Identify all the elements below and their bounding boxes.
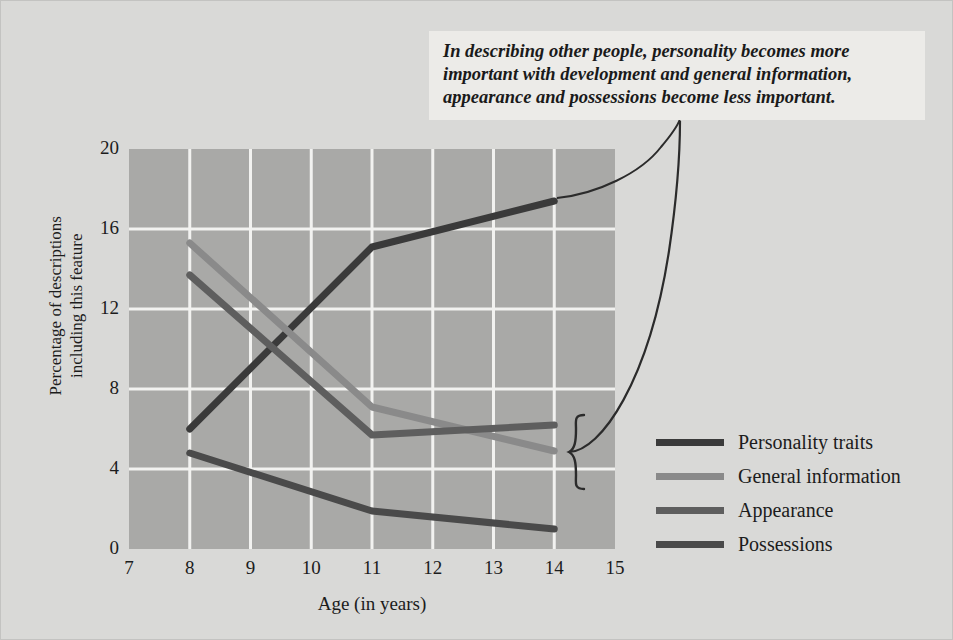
y-axis-title-line-1: Percentage of descriptions bbox=[46, 216, 65, 395]
legend-item-personality-traits[interactable]: Personality traits bbox=[656, 425, 936, 459]
legend-swatch-general-information bbox=[656, 473, 724, 480]
legend-item-general-information[interactable]: General information bbox=[656, 459, 936, 493]
x-tick-7: 7 bbox=[109, 557, 149, 579]
x-tick-11: 11 bbox=[352, 557, 392, 579]
legend-item-possessions[interactable]: Possessions bbox=[656, 527, 936, 561]
legend-item-appearance[interactable]: Appearance bbox=[656, 493, 936, 527]
x-tick-9: 9 bbox=[231, 557, 271, 579]
figure-container: 20 16 12 8 4 0 7 8 9 10 11 12 13 14 15 P… bbox=[0, 0, 953, 640]
x-axis-title: Age (in years) bbox=[129, 593, 615, 615]
legend-label-general-information: General information bbox=[738, 465, 901, 488]
y-axis-title: Percentage of descriptions including thi… bbox=[46, 176, 87, 436]
legend-swatch-personality-traits bbox=[656, 439, 724, 446]
legend-swatch-possessions bbox=[656, 541, 724, 548]
x-tick-14: 14 bbox=[534, 557, 574, 579]
legend-label-possessions: Possessions bbox=[738, 533, 832, 556]
x-tick-13: 13 bbox=[474, 557, 514, 579]
x-tick-10: 10 bbox=[291, 557, 331, 579]
y-tick-4: 4 bbox=[79, 457, 119, 479]
x-tick-8: 8 bbox=[170, 557, 210, 579]
y-axis-title-line-2: including this feature bbox=[67, 234, 86, 378]
callout-annotation: In describing other people, personality … bbox=[429, 31, 925, 120]
legend-label-personality-traits: Personality traits bbox=[738, 431, 873, 454]
x-tick-15: 15 bbox=[595, 557, 635, 579]
x-tick-12: 12 bbox=[413, 557, 453, 579]
legend: Personality traits General information A… bbox=[656, 425, 936, 561]
y-tick-0: 0 bbox=[79, 537, 119, 559]
legend-swatch-appearance bbox=[656, 507, 724, 514]
legend-label-appearance: Appearance bbox=[738, 499, 834, 522]
y-tick-20: 20 bbox=[79, 137, 119, 159]
